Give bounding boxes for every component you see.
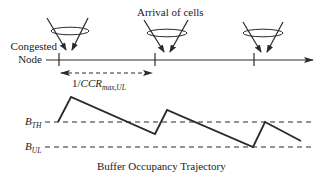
cell-arrival-icon-2 xyxy=(144,20,188,52)
congestion-diagram: Arrival of cells Congested Node 1/CCRmax… xyxy=(0,0,323,183)
interval-label-main: CCR xyxy=(81,77,103,89)
interval-label-sub: max,UL xyxy=(102,83,126,92)
b-th-label: BTH xyxy=(25,115,42,130)
cell-arrival-icon-3 xyxy=(243,22,283,52)
b-ul-label: BUL xyxy=(25,140,41,155)
b-th-label-sub: TH xyxy=(32,121,42,130)
arrival-of-cells-label: Arrival of cells xyxy=(137,6,204,18)
congested-node-label-line2: Node xyxy=(18,53,42,65)
interval-label: 1/CCRmax,UL xyxy=(72,77,126,92)
buffer-occupancy-caption: Buffer Occupancy Trajectory xyxy=(97,160,226,172)
congested-node-label-line1: Congested xyxy=(11,40,58,52)
b-ul-label-sub: UL xyxy=(32,146,42,155)
